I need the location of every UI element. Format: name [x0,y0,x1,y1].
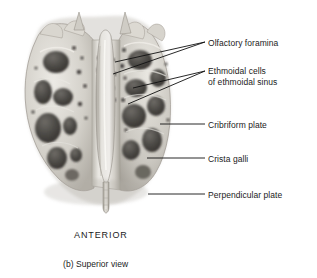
crista-galli [96,30,115,186]
label-crista-galli: Crista galli [208,154,248,165]
label-ethmoidal-cells: Ethmoidal cells of ethmoidal sinus [208,66,277,87]
orientation-marker-anterior: ANTERIOR [74,230,128,240]
figure-caption: (b) Superior view [63,259,128,269]
ethmoid-bone-figure: Olfactory foramina Ethmoidal cells of et… [0,0,317,278]
right-lateral-mass [118,12,170,191]
label-perpendicular-plate: Perpendicular plate [208,190,282,201]
ethmoid-bone-image [0,0,200,225]
specimen-shadow [44,179,148,205]
specimen-photograph [0,0,200,225]
label-cribriform-plate: Cribriform plate [208,120,267,131]
label-olfactory-foramina: Olfactory foramina [208,38,278,49]
